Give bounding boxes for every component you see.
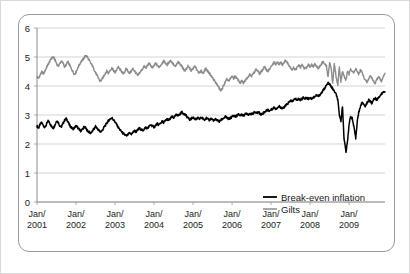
x-tick-label-year: 2001 <box>27 220 47 230</box>
x-tick-label-year: 2009 <box>339 220 359 230</box>
x-tick-label-month: Jan/ <box>146 209 164 219</box>
y-tick-label: 0 <box>25 197 30 208</box>
line-chart: 0123456 Jan/2001Jan/2002Jan/2003Jan/2004… <box>1 1 410 274</box>
y-tick-label: 4 <box>25 81 30 92</box>
chart-figure: 0123456 Jan/2001Jan/2002Jan/2003Jan/2004… <box>0 0 410 274</box>
data-series <box>37 55 385 152</box>
plot-container: 0123456 Jan/2001Jan/2002Jan/2003Jan/2004… <box>1 1 410 274</box>
x-tick-label-month: Jan/ <box>302 209 320 219</box>
x-tick-label-year: 2005 <box>183 220 203 230</box>
y-tick-label: 3 <box>25 110 30 121</box>
x-tick-label-month: Jan/ <box>341 209 359 219</box>
x-tick-label-year: 2008 <box>300 220 320 230</box>
x-tick-label-month: Jan/ <box>68 209 86 219</box>
x-axis-ticks: Jan/2001Jan/2002Jan/2003Jan/2004Jan/2005… <box>27 202 359 230</box>
y-tick-label: 2 <box>25 139 30 150</box>
x-tick-label-year: 2004 <box>144 220 164 230</box>
x-tick-label-month: Jan/ <box>107 209 125 219</box>
x-tick-label-year: 2007 <box>261 220 281 230</box>
x-tick-label-month: Jan/ <box>224 209 242 219</box>
gridlines <box>37 28 385 202</box>
x-tick-label-month: Jan/ <box>263 209 281 219</box>
y-tick-label: 1 <box>25 168 30 179</box>
y-axis-ticks: 0123456 <box>25 23 37 208</box>
x-tick-label-year: 2006 <box>222 220 242 230</box>
x-tick-label-year: 2003 <box>105 220 125 230</box>
legend-label-break-even-inflation: Break-even inflation <box>281 192 365 203</box>
y-tick-label: 5 <box>25 52 30 63</box>
y-tick-label: 6 <box>25 23 30 34</box>
series-line-break-even-inflation <box>37 82 385 152</box>
legend-label-gilts: Gilts <box>281 204 300 215</box>
x-tick-label-year: 2002 <box>66 220 86 230</box>
x-tick-label-month: Jan/ <box>28 209 46 219</box>
x-tick-label-month: Jan/ <box>185 209 203 219</box>
